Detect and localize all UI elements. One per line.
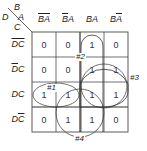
cell-r3-c1: 1 (56, 107, 80, 132)
cell-r3-c0: 0 (32, 107, 56, 132)
corner-label-a: A (18, 13, 24, 22)
row-header-2: DC (8, 90, 28, 99)
group-label-2: #2 (75, 53, 86, 61)
cell-r2-c2: 1 (80, 82, 104, 107)
cell-r0-c3: 0 (104, 32, 128, 57)
group-label-3: #3 (129, 74, 140, 82)
row-header-1: DC (8, 65, 28, 74)
cell-r2-c1: 1 (56, 82, 80, 107)
column-header-3: BA (104, 15, 128, 24)
column-header-0: BA (32, 15, 56, 24)
cell-r1-c0: 0 (32, 57, 56, 82)
cell-r3-c3: 0 (104, 107, 128, 132)
row-header-0: DC (8, 40, 28, 49)
cell-r2-c3: 1 (104, 82, 128, 107)
column-header-2: BA (80, 15, 104, 24)
cell-r0-c0: 0 (32, 32, 56, 57)
corner-label-b: B (14, 3, 20, 12)
cell-r1-c3: 1 (104, 57, 128, 82)
row-header-3: DC (8, 115, 28, 124)
group-label-4: #4 (74, 135, 85, 143)
group-label-1: #1 (46, 84, 57, 92)
corner-label-d: D (2, 13, 9, 22)
corner-label-c: C (14, 23, 21, 32)
column-header-1: BA (56, 15, 80, 24)
cell-r3-c2: 1 (80, 107, 104, 132)
